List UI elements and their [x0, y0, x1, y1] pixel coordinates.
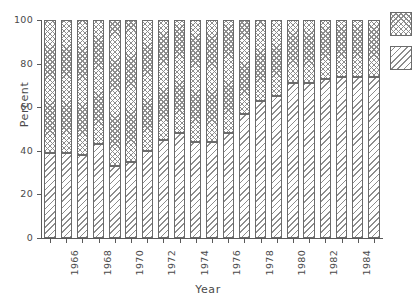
bar-segment-lower	[158, 140, 169, 238]
bar-segment-upper	[190, 20, 201, 142]
bar[interactable]	[109, 20, 120, 238]
bar-segment-lower	[125, 162, 136, 238]
bar-segment-upper	[287, 20, 298, 83]
bar[interactable]	[368, 20, 379, 238]
legend-swatch-cross-hatch[interactable]	[390, 12, 412, 36]
bar[interactable]	[255, 20, 266, 238]
x-tick	[261, 238, 262, 243]
bar[interactable]	[206, 20, 217, 238]
bar-segment-lower	[223, 133, 234, 238]
x-tick	[147, 238, 148, 243]
bar[interactable]	[287, 20, 298, 238]
y-tick-label: 40	[20, 146, 33, 156]
x-tick	[180, 238, 181, 243]
x-tick	[196, 238, 197, 243]
bar-segment-upper	[61, 20, 72, 153]
bar[interactable]	[336, 20, 347, 238]
y-tick-label: 100	[14, 15, 33, 25]
x-tick	[82, 238, 83, 243]
bar-segment-upper	[255, 20, 266, 101]
bar[interactable]	[125, 20, 136, 238]
x-tick-label: 1984	[362, 250, 372, 275]
x-tick-label: 1974	[200, 250, 210, 275]
x-tick	[342, 238, 343, 243]
x-tick	[66, 238, 67, 243]
y-tick	[37, 151, 42, 152]
bar-segment-upper	[320, 20, 331, 79]
bar-segment-lower	[336, 77, 347, 238]
y-tick-label: 80	[20, 59, 33, 69]
bar-segment-lower	[303, 83, 314, 238]
bar-segment-lower	[93, 144, 104, 238]
bar-segment-upper	[158, 20, 169, 140]
x-tick	[374, 238, 375, 243]
bar-segment-lower	[352, 77, 363, 238]
bar[interactable]	[190, 20, 201, 238]
bar-segment-lower	[174, 133, 185, 238]
x-tick-label: 1968	[103, 250, 113, 275]
x-tick	[325, 238, 326, 243]
bar-segment-upper	[142, 20, 153, 151]
bar-segment-lower	[368, 77, 379, 238]
bar[interactable]	[352, 20, 363, 238]
x-tick	[115, 238, 116, 243]
legend-swatch-diagonal-hatch[interactable]	[390, 46, 412, 70]
bar-segment-lower	[190, 142, 201, 238]
y-axis-line	[41, 20, 42, 239]
bar-segment-upper	[93, 20, 104, 144]
x-tick	[244, 238, 245, 243]
bar[interactable]	[271, 20, 282, 238]
bar[interactable]	[223, 20, 234, 238]
y-tick-label: 60	[20, 102, 33, 112]
bar-segment-lower	[271, 96, 282, 238]
bar[interactable]	[158, 20, 169, 238]
bar-segment-upper	[368, 20, 379, 77]
bar[interactable]	[93, 20, 104, 238]
bar[interactable]	[303, 20, 314, 238]
bar-segment-lower	[320, 79, 331, 238]
bar-segment-upper	[352, 20, 363, 77]
bar[interactable]	[174, 20, 185, 238]
x-tick-label: 1966	[70, 250, 80, 275]
x-tick-label: 1982	[329, 250, 339, 275]
bar[interactable]	[44, 20, 55, 238]
bar-segment-lower	[255, 101, 266, 238]
x-tick	[293, 238, 294, 243]
bar-segment-lower	[44, 153, 55, 238]
bar-segment-upper	[77, 20, 88, 155]
bar-segment-lower	[287, 83, 298, 238]
x-tick-label: 1972	[167, 250, 177, 275]
bar-segment-upper	[336, 20, 347, 77]
chart-legend	[390, 12, 414, 80]
bar[interactable]	[61, 20, 72, 238]
plot-area: 020406080100 196619681970197219741976197…	[42, 20, 382, 238]
bar-segment-upper	[44, 20, 55, 153]
x-tick	[309, 238, 310, 243]
x-tick	[163, 238, 164, 243]
y-tick-label: 20	[20, 190, 33, 200]
bar-segment-upper	[239, 20, 250, 114]
bar-segment-upper	[174, 20, 185, 133]
x-tick	[50, 238, 51, 243]
x-tick-label: 1976	[232, 250, 242, 275]
bar-segment-upper	[125, 20, 136, 162]
bar[interactable]	[77, 20, 88, 238]
x-tick-label: 1978	[265, 250, 275, 275]
bar-segment-upper	[271, 20, 282, 96]
y-tick	[37, 64, 42, 65]
x-tick	[358, 238, 359, 243]
x-tick	[99, 238, 100, 243]
bar[interactable]	[239, 20, 250, 238]
bar[interactable]	[142, 20, 153, 238]
bar-segment-lower	[142, 151, 153, 238]
stacked-bar-chart: Percent Year 020406080100 19661968197019…	[0, 0, 416, 304]
x-tick-label: 1980	[297, 250, 307, 275]
y-tick-label: 0	[27, 233, 33, 243]
x-tick-label: 1970	[135, 250, 145, 275]
x-tick	[212, 238, 213, 243]
bar-segment-lower	[109, 166, 120, 238]
x-axis-title: Year	[0, 283, 416, 296]
bar-segment-upper	[109, 20, 120, 166]
bar[interactable]	[320, 20, 331, 238]
bar-segment-upper	[223, 20, 234, 133]
